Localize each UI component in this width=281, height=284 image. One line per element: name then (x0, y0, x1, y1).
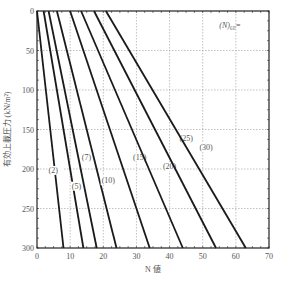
x-tick-label: 50 (199, 252, 207, 261)
series-label: (7) (82, 153, 92, 162)
y-tick-label: 250 (22, 205, 34, 214)
x-tick-label: 30 (132, 252, 140, 261)
series-label: (2) (49, 166, 59, 175)
series-label: (30) (199, 143, 213, 152)
series-label: (5) (72, 182, 82, 191)
y-tick-label: 50 (26, 47, 34, 56)
y-axis-title: 有効上載圧力 (kN/m²) (2, 91, 12, 167)
series-line (81, 11, 183, 248)
x-tick-label: 70 (265, 252, 273, 261)
y-tick-label: 0 (30, 7, 34, 16)
y-tick-label: 150 (22, 126, 34, 135)
series-line (57, 11, 117, 248)
annotation-label: (N)₆₀= (219, 21, 241, 30)
y-tick-label: 100 (22, 86, 34, 95)
x-tick-label: 20 (99, 252, 107, 261)
y-tick-label: 200 (22, 165, 34, 174)
x-tick-label: 40 (166, 252, 174, 261)
x-axis-title: N 値 (145, 264, 161, 274)
y-tick-label: 300 (22, 244, 34, 253)
chart: 010203040506070050100150200250300(2)(5)(… (0, 0, 281, 284)
series-label: (10) (102, 176, 116, 185)
series-line (106, 11, 246, 248)
x-tick-label: 60 (232, 252, 240, 261)
x-tick-label: 0 (35, 252, 39, 261)
x-tick-label: 10 (66, 252, 74, 261)
